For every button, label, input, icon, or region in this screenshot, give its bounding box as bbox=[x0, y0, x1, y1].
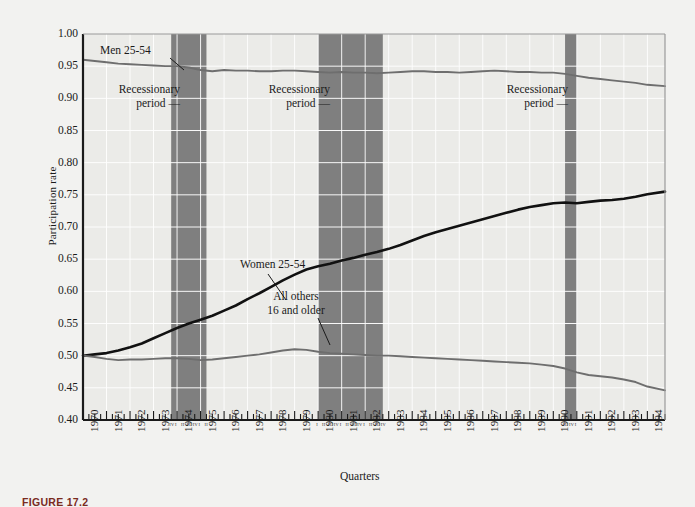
quarter-mark: I bbox=[363, 422, 365, 427]
x-tick-label-year: 1970 bbox=[88, 409, 100, 432]
x-tick-label-year: 1990 bbox=[558, 409, 570, 432]
x-tick-label-year: 1977 bbox=[253, 409, 265, 432]
x-axis-title: Quarters bbox=[340, 470, 380, 482]
quarter-mark: IV bbox=[334, 422, 339, 427]
x-tick-label-year: 1986 bbox=[464, 409, 476, 432]
y-axis-title: Participation rate bbox=[46, 136, 58, 276]
x-tick-label-year: 1992 bbox=[605, 409, 617, 432]
x-tick-label-year: 1971 bbox=[112, 409, 124, 432]
women-series-label-line-1: Women 25-54 bbox=[240, 258, 305, 272]
recession-label-3-line-1: Recessionary bbox=[476, 83, 568, 97]
x-tick-label-year: 1975 bbox=[206, 409, 218, 432]
y-tick-label: 0.60 bbox=[58, 284, 78, 296]
allothers-series-label-line-1: All others bbox=[254, 290, 338, 304]
quarter-mark: III bbox=[375, 422, 380, 427]
x-tick-label-year: 1982 bbox=[370, 409, 382, 432]
recession-label-1-line-1: Recessionary bbox=[88, 83, 180, 97]
recession-label-1-line-2: period — bbox=[88, 97, 180, 111]
y-tick-label: 0.45 bbox=[58, 381, 78, 393]
x-tick-label-year: 1993 bbox=[629, 409, 641, 432]
x-tick-label-year: 1972 bbox=[135, 409, 147, 432]
x-tick-label-year: 1974 bbox=[182, 409, 194, 432]
y-tick-label: 0.95 bbox=[58, 59, 78, 71]
allothers-series-label-line-2: 16 and older bbox=[254, 304, 338, 318]
quarter-mark: II bbox=[369, 422, 373, 427]
x-tick-label-year: 1980 bbox=[323, 409, 335, 432]
x-tick-label-year: 1976 bbox=[229, 409, 241, 432]
x-tick-label-year: 1988 bbox=[511, 409, 523, 432]
recession-label-2-line-1: Recessionary bbox=[238, 83, 330, 97]
quarter-mark: IV bbox=[569, 422, 574, 427]
quarter-mark: II bbox=[181, 422, 185, 427]
quarter-mark: I bbox=[575, 422, 577, 427]
quarter-mark: I bbox=[316, 422, 318, 427]
men-series-label-line-1: Men 25-54 bbox=[100, 44, 151, 58]
y-tick-label: 0.85 bbox=[58, 124, 78, 136]
recession-label-1: Recessionaryperiod — bbox=[88, 83, 180, 110]
quarter-mark: III bbox=[563, 422, 568, 427]
men-series-label: Men 25-54 bbox=[100, 44, 151, 58]
quarter-mark: I bbox=[199, 422, 201, 427]
x-tick-label-year: 1978 bbox=[276, 409, 288, 432]
x-tick-label-year: 1981 bbox=[347, 409, 359, 432]
x-tick-label-year: 1973 bbox=[159, 409, 171, 432]
quarter-mark: III bbox=[187, 422, 192, 427]
recession-label-2-line-2: period — bbox=[238, 97, 330, 111]
quarter-mark: III bbox=[328, 422, 333, 427]
y-tick-label: 1.00 bbox=[58, 27, 78, 39]
quarter-mark: II bbox=[346, 422, 350, 427]
women-series-label: Women 25-54 bbox=[240, 258, 305, 272]
quarter-mark: II bbox=[204, 422, 208, 427]
quarter-mark: IV bbox=[381, 422, 386, 427]
recession-label-2: Recessionaryperiod — bbox=[238, 83, 330, 110]
recession-label-3-line-2: period — bbox=[476, 97, 568, 111]
x-tick-label-year: 1987 bbox=[488, 409, 500, 432]
y-tick-label: 0.65 bbox=[58, 252, 78, 264]
x-tick-label-year: 1994 bbox=[652, 409, 664, 432]
y-tick-label: 0.40 bbox=[58, 413, 78, 425]
y-tick-label: 0.90 bbox=[58, 91, 78, 103]
y-tick-label: 0.50 bbox=[58, 349, 78, 361]
quarter-mark: II bbox=[322, 422, 326, 427]
x-tick-label-year: 1983 bbox=[394, 409, 406, 432]
y-tick-label: 0.80 bbox=[58, 156, 78, 168]
quarter-mark: I bbox=[340, 422, 342, 427]
y-tick-label: 0.75 bbox=[58, 188, 78, 200]
x-tick-label-year: 1991 bbox=[582, 409, 594, 432]
quarter-mark: III bbox=[351, 422, 356, 427]
recession-label-3: Recessionaryperiod — bbox=[476, 83, 568, 110]
x-tick-label-year: 1985 bbox=[441, 409, 453, 432]
x-tick-label-year: 1984 bbox=[417, 409, 429, 432]
quarter-mark: I bbox=[175, 422, 177, 427]
quarter-mark: IV bbox=[169, 422, 174, 427]
x-tick-label-year: 1979 bbox=[300, 409, 312, 432]
quarter-mark: IV bbox=[193, 422, 198, 427]
quarter-mark: IV bbox=[357, 422, 362, 427]
y-tick-label: 0.70 bbox=[58, 220, 78, 232]
figure-caption: FIGURE 17.2 bbox=[22, 496, 88, 507]
y-tick-label: 0.55 bbox=[58, 317, 78, 329]
allothers-series-label: All others16 and older bbox=[254, 290, 338, 317]
x-tick-label-year: 1989 bbox=[535, 409, 547, 432]
figure-root: 0.400.450.500.550.600.650.700.750.800.85… bbox=[0, 0, 695, 507]
